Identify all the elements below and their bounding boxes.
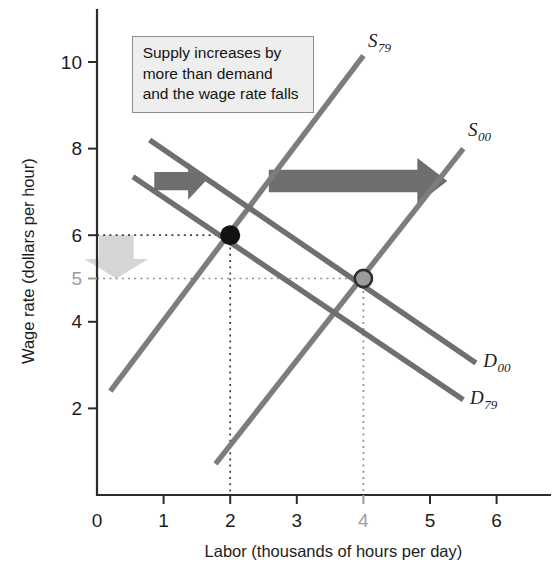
y-tick-label-5: 5: [71, 268, 82, 289]
x-tick-label-2: 2: [225, 510, 236, 531]
curve-label-sub-D00: 00: [498, 360, 512, 375]
x-tick-label-5: 5: [425, 510, 436, 531]
curve-label-D79: D79: [469, 387, 498, 412]
x-axis-title: Labor (thousands of hours per day): [205, 542, 463, 560]
x-tick-label-4: 4: [358, 510, 369, 531]
y-tick-label-6: 6: [71, 225, 82, 246]
annotation-callout-box: Supply increases by more than demand and…: [132, 36, 314, 113]
supply-demand-figure: 24568100123456Labor (thousands of hours …: [0, 0, 559, 569]
x-tick-label-6: 6: [491, 510, 502, 531]
curve-label-S00: S00: [468, 119, 492, 144]
supply-shift-arrow: [269, 158, 447, 204]
curve-label-sub-D79: 79: [484, 397, 498, 412]
x-tick-label-3: 3: [292, 510, 303, 531]
new-equilibrium: [355, 270, 372, 287]
curve-S00: [216, 149, 464, 464]
guide-lines-layer: [97, 235, 363, 495]
annotation-callout-text: Supply increases by more than demand and…: [143, 43, 304, 105]
wage-fall-arrow: [84, 235, 148, 278]
curve-labels-layer: S79S00D00D79: [368, 30, 511, 412]
original-equilibrium: [220, 225, 240, 245]
x-tick-label-0: 0: [92, 510, 103, 531]
curve-label-D00: D00: [482, 350, 511, 375]
curve-label-sub-S00: 00: [478, 129, 492, 144]
x-tick-label-1: 1: [158, 510, 169, 531]
y-tick-label-10: 10: [61, 52, 82, 73]
y-tick-label-4: 4: [71, 311, 82, 332]
curve-label-sub-S79: 79: [378, 40, 392, 55]
y-axis-title: Wage rate (dollars per hour): [19, 158, 37, 364]
curves-layer: [110, 56, 476, 464]
y-tick-label-8: 8: [71, 138, 82, 159]
curve-label-S79: S79: [368, 30, 392, 55]
y-tick-label-2: 2: [71, 398, 82, 419]
